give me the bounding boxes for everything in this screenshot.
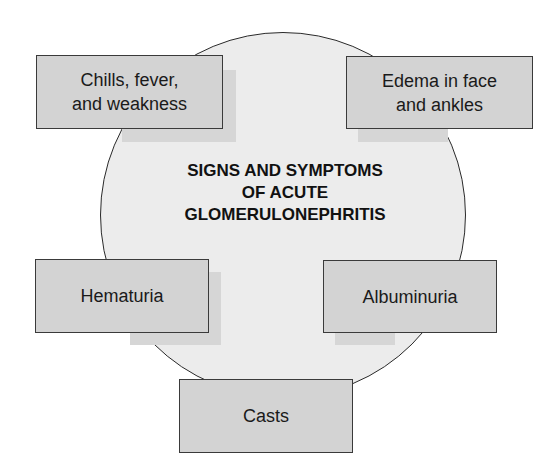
symptom-text: Chills, fever, bbox=[80, 68, 178, 92]
symptom-text: Hematuria bbox=[80, 284, 163, 308]
symptom-box-albuminuria: Albuminuria bbox=[323, 260, 497, 333]
box-shadow-edema bbox=[358, 128, 448, 142]
box-shadow-albuminuria bbox=[335, 332, 395, 345]
symptom-text: Edema in face bbox=[382, 69, 497, 93]
symptom-box-chills: Chills, fever, and weakness bbox=[36, 55, 223, 129]
symptom-text: and weakness bbox=[72, 92, 187, 116]
symptom-text: and ankles bbox=[396, 93, 483, 117]
symptom-box-edema: Edema in face and ankles bbox=[346, 56, 533, 129]
title-line-2: OF ACUTE bbox=[140, 182, 430, 204]
title-line-1: SIGNS AND SYMPTOMS bbox=[140, 160, 430, 182]
symptom-text: Casts bbox=[243, 404, 289, 428]
symptom-box-hematuria: Hematuria bbox=[35, 259, 209, 333]
symptom-box-casts: Casts bbox=[179, 379, 353, 453]
diagram-title: SIGNS AND SYMPTOMS OF ACUTE GLOMERULONEP… bbox=[140, 160, 430, 226]
title-line-3: GLOMERULONEPHRITIS bbox=[140, 204, 430, 226]
symptom-text: Albuminuria bbox=[362, 285, 457, 309]
